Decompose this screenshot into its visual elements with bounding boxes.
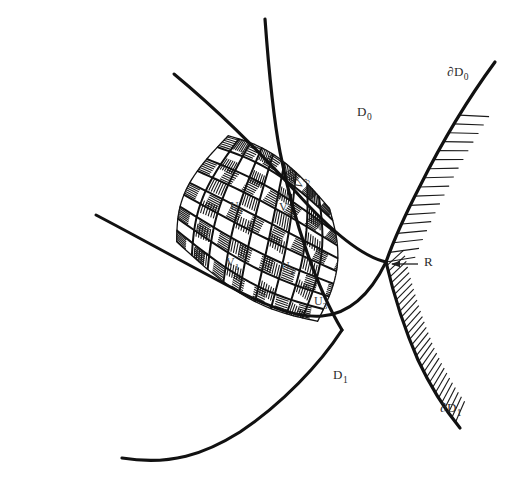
figure-background	[0, 0, 510, 490]
cell-label-V1-base: V	[226, 255, 235, 269]
cell-label-U2-base: U	[281, 259, 290, 273]
region-label-D0-base: D	[357, 104, 367, 119]
boundary-label-dD0-base: ∂D	[447, 64, 464, 79]
figure-root: R D0D1∂D0∂D1U1V2V3V1U2U3	[0, 0, 510, 490]
cell-label-U3-subscript: 3	[323, 301, 328, 311]
diagram-canvas: R D0D1∂D0∂D1U1V2V3V1U2U3	[0, 0, 510, 490]
region-label-D1-base: D	[333, 367, 343, 382]
boundary-hatch-tick	[429, 168, 459, 169]
region-label-D1-subscript: 1	[343, 375, 348, 385]
cell-label-U2-subscript: 2	[290, 266, 295, 276]
cell-label-U3-base: U	[314, 294, 323, 308]
crossing-point-label: R	[424, 254, 433, 269]
region-label-D0-subscript: 0	[367, 112, 372, 122]
cell-label-V2-subscript: 2	[288, 207, 293, 217]
cell-label-V1-subscript: 1	[235, 262, 240, 272]
cell-label-U1-subscript: 1	[239, 206, 244, 216]
boundary-label-dD0-subscript: 0	[464, 72, 469, 82]
cell-label-U1-base: U	[230, 199, 239, 213]
boundary-label-dD1-subscript: 1	[457, 408, 462, 418]
boundary-label-dD1-base: ∂D	[440, 400, 457, 415]
cell-label-V2-base: V	[279, 200, 288, 214]
